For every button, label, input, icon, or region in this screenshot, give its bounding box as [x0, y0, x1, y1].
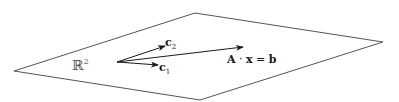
- equation-label: A · x = b: [226, 53, 277, 66]
- plane-parallelogram: [14, 13, 383, 100]
- diagram-canvas: ℝ2 c2 c1 A · x = b: [0, 0, 399, 102]
